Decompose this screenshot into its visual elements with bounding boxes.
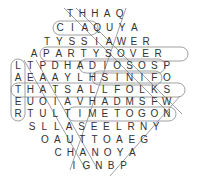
letter-cell[interactable]: A [126,147,138,159]
letter-cell[interactable]: H [62,60,74,72]
letter-cell[interactable]: B [105,160,117,172]
letter-cell[interactable]: A [51,134,63,146]
letter-cell[interactable]: F [148,72,160,84]
letter-cell[interactable]: T [12,84,24,96]
letter-cell[interactable]: L [74,72,86,84]
letter-cell[interactable]: U [37,108,49,120]
letter-cell[interactable]: L [49,108,61,120]
letter-cell[interactable]: A [37,72,49,84]
letter-cell[interactable]: E [128,36,140,48]
letter-cell[interactable]: S [26,121,38,133]
letter-cell[interactable]: E [126,134,138,146]
letter-cell[interactable]: I [74,108,86,120]
letter-cell[interactable]: V [127,48,139,60]
letter-cell[interactable]: O [101,134,113,146]
letter-cell[interactable]: H [89,8,101,20]
letter-cell[interactable]: F [148,96,160,108]
letter-cell[interactable]: H [86,72,98,84]
letter-cell[interactable]: S [78,36,90,48]
letter-cell[interactable]: H [64,147,76,159]
letter-cell[interactable]: S [76,121,88,133]
letter-cell[interactable]: I [111,72,123,84]
letter-cell[interactable]: T [49,84,61,96]
letter-cell[interactable]: F [111,84,123,96]
letter-cell[interactable]: L [113,121,125,133]
letter-cell[interactable]: D [111,96,123,108]
letter-cell[interactable]: A [77,147,89,159]
letter-cell[interactable]: S [102,48,114,60]
letter-cell[interactable]: I [68,160,80,172]
letter-cell[interactable]: H [86,96,98,108]
letter-cell[interactable]: R [12,108,24,120]
letter-cell[interactable]: I [99,60,111,72]
letter-cell[interactable]: S [66,36,78,48]
letter-cell[interactable]: T [76,134,88,146]
letter-cell[interactable]: O [102,147,114,159]
letter-cell[interactable]: N [93,160,105,172]
letter-cell[interactable]: R [152,48,164,60]
letter-cell[interactable]: P [161,60,173,72]
letter-cell[interactable]: I [49,96,61,108]
letter-cell[interactable]: L [38,121,50,133]
letter-cell[interactable]: O [161,72,173,84]
letter-cell[interactable]: I [136,72,148,84]
letter-cell[interactable]: T [64,8,76,20]
letter-cell[interactable]: A [37,84,49,96]
letter-cell[interactable]: P [118,160,130,172]
letter-cell[interactable]: H [24,84,36,96]
letter-cell[interactable]: L [12,60,24,72]
letter-cell[interactable]: Y [90,48,102,60]
letter-cell[interactable]: O [111,60,123,72]
letter-cell[interactable]: W [161,96,173,108]
letter-cell[interactable]: A [74,84,86,96]
letter-cell[interactable]: Y [53,36,65,48]
letter-cell[interactable]: T [24,60,36,72]
letter-cell[interactable]: P [37,60,49,72]
letter-cell[interactable]: O [136,60,148,72]
letter-cell[interactable]: T [89,134,101,146]
letter-cell[interactable]: S [161,84,173,96]
letter-cell[interactable]: S [148,60,160,72]
letter-cell[interactable]: O [124,108,136,120]
letter-cell[interactable]: L [136,84,148,96]
letter-cell[interactable]: A [113,134,125,146]
letter-cell[interactable]: A [128,22,140,34]
letter-cell[interactable]: Q [91,22,103,34]
letter-cell[interactable]: N [161,108,173,120]
letter-cell[interactable]: A [101,8,113,20]
letter-cell[interactable]: R [125,121,137,133]
letter-cell[interactable]: C [52,147,64,159]
letter-cell[interactable]: S [124,60,136,72]
letter-cell[interactable]: O [115,48,127,60]
letter-cell[interactable]: Y [150,121,162,133]
letter-cell[interactable]: M [124,96,136,108]
letter-cell[interactable]: O [39,134,51,146]
letter-cell[interactable]: W [115,36,127,48]
letter-cell[interactable]: U [24,96,36,108]
letter-cell[interactable]: N [89,147,101,159]
letter-cell[interactable]: Q [114,8,126,20]
letter-cell[interactable]: G [136,108,148,120]
letter-cell[interactable]: A [62,96,74,108]
letter-cell[interactable]: A [79,22,91,34]
letter-cell[interactable]: E [100,121,112,133]
letter-cell[interactable]: N [138,121,150,133]
letter-cell[interactable]: N [124,72,136,84]
letter-cell[interactable]: A [49,72,61,84]
letter-cell[interactable]: O [37,96,49,108]
letter-cell[interactable]: A [53,48,65,60]
letter-cell[interactable]: A [12,72,24,84]
letter-cell[interactable]: G [138,134,150,146]
letter-cell[interactable]: A [74,60,86,72]
letter-cell[interactable]: G [80,160,92,172]
letter-cell[interactable]: L [51,121,63,133]
letter-cell[interactable]: T [62,108,74,120]
letter-cell[interactable]: A [63,121,75,133]
letter-cell[interactable]: A [99,96,111,108]
letter-cell[interactable]: S [62,84,74,96]
letter-cell[interactable]: E [99,108,111,120]
letter-cell[interactable]: I [66,22,78,34]
letter-cell[interactable]: K [148,84,160,96]
letter-cell[interactable]: H [76,8,88,20]
letter-cell[interactable]: P [40,48,52,60]
